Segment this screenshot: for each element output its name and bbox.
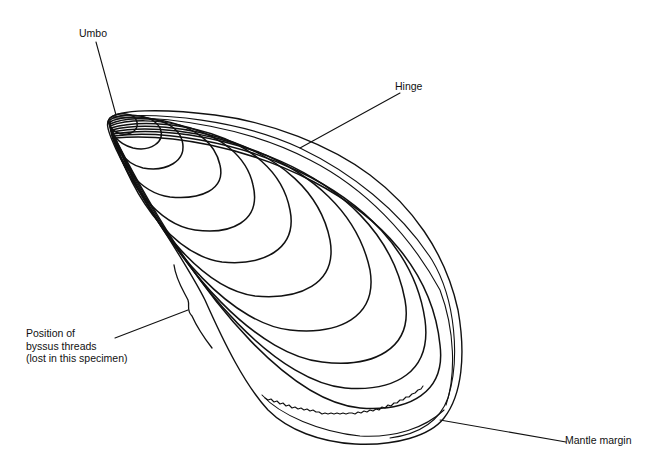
growth-ring-10 [114, 134, 426, 388]
hinge-leader-line [300, 93, 400, 148]
umbo-leader-line [96, 42, 116, 115]
mantle-margin-leader-line [440, 420, 566, 442]
mantle-margin [262, 386, 444, 436]
label-mantle-margin: Mantle margin [565, 434, 632, 447]
growth-ring-11 [115, 137, 441, 408]
shell-outline [108, 111, 462, 445]
label-byssus-line-1: Position of [26, 327, 128, 340]
label-umbo: Umbo [79, 27, 107, 40]
growth-ring-7 [112, 126, 331, 296]
mussel-shell-diagram [0, 0, 660, 469]
label-byssus-line-3: (lost in this specimen) [26, 352, 128, 365]
label-byssus-threads: Position of byssus threads (lost in this… [26, 327, 128, 365]
label-hinge: Hinge [395, 80, 422, 93]
growth-rings [109, 114, 441, 409]
label-byssus-line-2: byssus threads [26, 340, 128, 353]
growth-ring-9 [113, 132, 406, 364]
growth-ring-6 [111, 123, 291, 262]
